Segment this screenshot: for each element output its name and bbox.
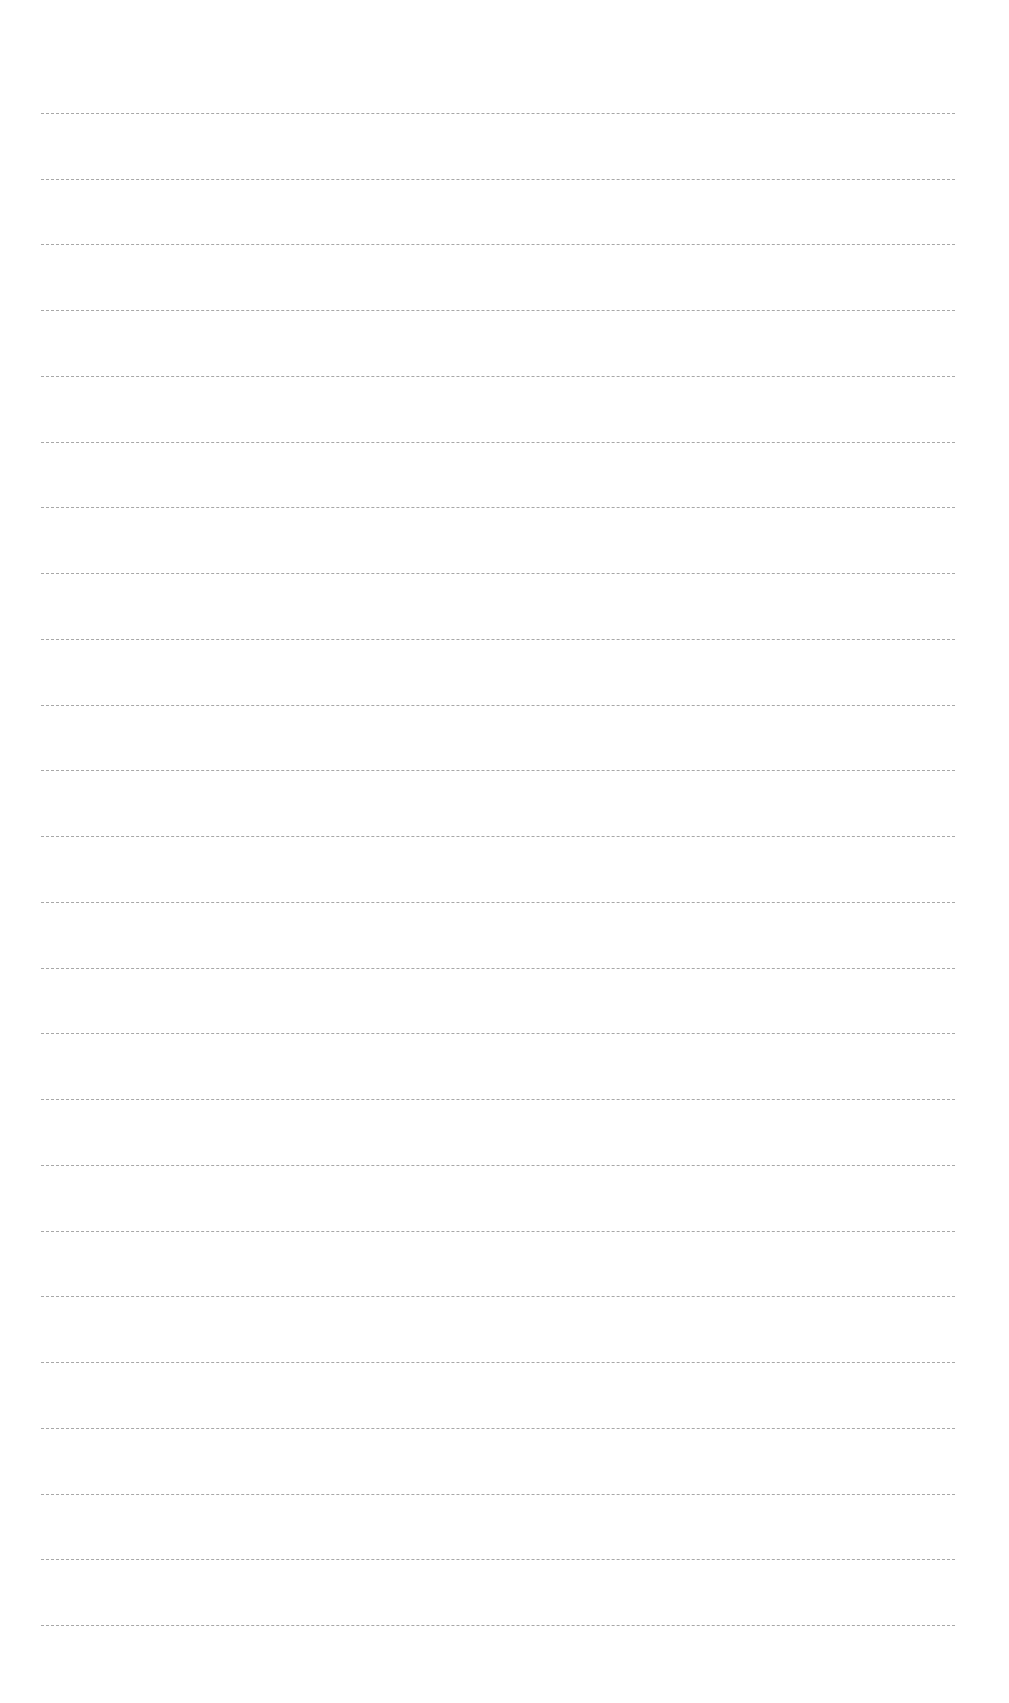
ruled-line xyxy=(41,902,955,903)
ruled-line xyxy=(41,507,955,508)
ruled-line xyxy=(41,113,955,114)
ruled-line xyxy=(41,179,955,180)
ruled-line xyxy=(41,770,955,771)
ruled-line xyxy=(41,376,955,377)
ruled-line xyxy=(41,1428,955,1429)
ruled-line xyxy=(41,442,955,443)
ruled-line xyxy=(41,705,955,706)
ruled-line xyxy=(41,639,955,640)
ruled-line xyxy=(41,968,955,969)
ruled-line xyxy=(41,573,955,574)
ruled-line xyxy=(41,244,955,245)
ruled-line xyxy=(41,1099,955,1100)
ruled-line xyxy=(41,1625,955,1626)
ruled-line xyxy=(41,1033,955,1034)
ruled-line xyxy=(41,1559,955,1560)
ruled-line xyxy=(41,1231,955,1232)
ruled-line xyxy=(41,1296,955,1297)
ruled-line xyxy=(41,1494,955,1495)
ruled-line xyxy=(41,1362,955,1363)
ruled-line xyxy=(41,836,955,837)
ruled-line xyxy=(41,1165,955,1166)
lined-paper-page xyxy=(0,0,1009,1703)
ruled-line xyxy=(41,310,955,311)
